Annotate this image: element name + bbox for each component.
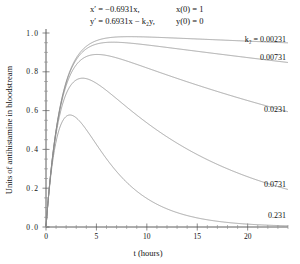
- x-axis-tick-label: 5: [95, 232, 99, 241]
- curves-group: [46, 37, 288, 227]
- y-axis: 0.00.20.40.60.81.0: [26, 29, 49, 232]
- y-axis-tick-label: 0.6: [26, 106, 39, 115]
- curve-label: k₂ = 0.00231: [245, 35, 286, 44]
- equation-line1-right: x(0) = 1: [176, 4, 203, 14]
- curve-label: 0.231: [268, 211, 286, 220]
- x-axis-tick-label: 20: [244, 232, 252, 241]
- y-axis-tick-label: 0.0: [26, 223, 39, 232]
- equation-line1-left: x′ = −0.6931x,: [90, 4, 140, 14]
- x-axis-title: t (hours): [133, 248, 162, 258]
- x-axis-tick-label: 10: [143, 232, 151, 241]
- y-axis-tick-label: 1.0: [26, 29, 39, 38]
- equation-line2-right: y(0) = 0: [176, 16, 203, 26]
- antihistamine-bloodstream-figure: x′ = −0.6931x, x(0) = 1 y′ = 0.6931x − k…: [0, 0, 300, 264]
- y-axis-title: Units of antihistamine in bloodstream: [4, 65, 14, 194]
- curve-label: 0.00731: [260, 53, 286, 62]
- x-axis-tick-label: 15: [194, 232, 202, 241]
- y-axis-tick-label: 0.4: [26, 145, 39, 154]
- x-axis-tick-label: 0: [44, 232, 48, 241]
- chart-canvas: x′ = −0.6931x, x(0) = 1 y′ = 0.6931x − k…: [0, 0, 300, 264]
- curve-labels-group: k₂ = 0.002310.007310.02310.07310.231: [245, 35, 286, 221]
- curve-label: 0.0731: [264, 180, 286, 189]
- curve-0-231: [46, 115, 288, 227]
- y-axis-tick-label: 0.2: [26, 184, 39, 193]
- curve-0-00231: [46, 37, 288, 227]
- curve-label: 0.0231: [264, 105, 286, 114]
- equation-line2-left: y′ = 0.6931x − k₂y,: [90, 16, 155, 26]
- curve-0-0731: [46, 78, 288, 227]
- equation-annotation: x′ = −0.6931x, x(0) = 1 y′ = 0.6931x − k…: [90, 4, 203, 26]
- curve-0-0231: [46, 54, 288, 227]
- y-axis-tick-label: 0.8: [26, 67, 39, 76]
- x-axis: 05101520: [44, 224, 288, 242]
- curve-0-00731: [46, 42, 288, 227]
